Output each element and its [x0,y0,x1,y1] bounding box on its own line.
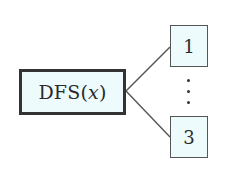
child-node-1-label: 1 [183,36,194,57]
child-node-3: 3 [170,116,208,158]
root-label-suffix: ) [99,81,107,103]
ellipsis-dot [187,79,190,82]
child-node-3-label: 3 [183,127,194,148]
diagram-canvas: DFS(x) 1 3 [0,0,242,176]
edge-root-to-child-3 [126,91,170,137]
edge-root-to-child-1 [126,47,170,91]
root-node-dfs: DFS(x) [19,69,126,115]
root-label-prefix: DFS( [38,81,88,103]
root-label-variable: x [88,81,99,103]
ellipsis-dot [187,101,190,104]
child-node-1: 1 [170,25,208,67]
ellipsis-dot [187,90,190,93]
